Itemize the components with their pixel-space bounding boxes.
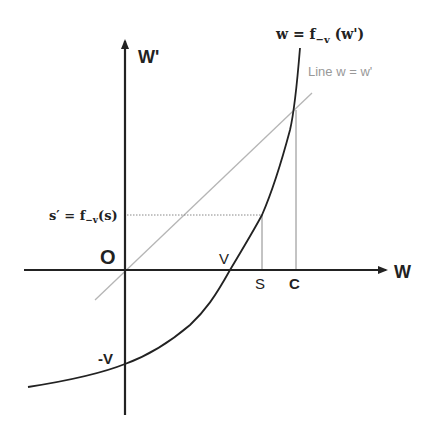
s-prime-label: s′ = f−v(s) (49, 208, 118, 225)
s-label: S (255, 275, 265, 292)
v-label: V (219, 250, 229, 267)
y-axis-label: W' (138, 47, 159, 67)
identity-line-label: Line w = w' (308, 64, 372, 79)
function-diagram: w = f−v (w') Line w = w' W' W O V S C -V… (0, 0, 430, 433)
c-label: C (289, 275, 300, 292)
origin-label: O (100, 246, 116, 268)
curve-label: w = f−v (w') (275, 26, 364, 45)
x-axis-label: W (394, 262, 411, 282)
neg-v-label: -V (98, 350, 113, 367)
